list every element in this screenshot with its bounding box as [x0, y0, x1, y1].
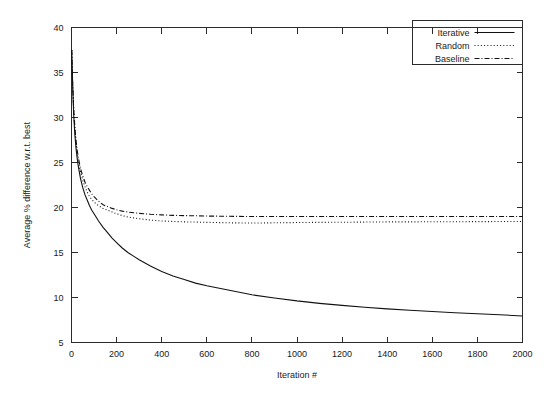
x-axis-ticks: 0200400600800100012001400160018002000: [69, 28, 533, 359]
y-tick-label: 35: [53, 68, 63, 78]
line-chart: 510152025303540 020040060080010001200140…: [0, 0, 558, 403]
y-axis-title: Average % difference w.r.t. best: [22, 121, 32, 248]
legend-label-random: Random: [435, 41, 469, 51]
y-tick-label: 10: [53, 293, 63, 303]
y-tick-label: 25: [53, 158, 63, 168]
x-tick-label: 1800: [467, 349, 487, 359]
series-line-baseline: [72, 50, 523, 217]
chart-figure: 510152025303540 020040060080010001200140…: [0, 0, 558, 403]
x-tick-label: 1600: [422, 349, 442, 359]
x-tick-label: 200: [109, 349, 124, 359]
legend-label-iterative: Iterative: [437, 28, 469, 38]
y-tick-label: 5: [58, 338, 63, 348]
plot-frame: [72, 28, 523, 343]
y-tick-label: 30: [53, 113, 63, 123]
x-tick-label: 0: [69, 349, 74, 359]
x-tick-label: 1000: [287, 349, 307, 359]
y-tick-label: 15: [53, 248, 63, 258]
x-tick-label: 800: [244, 349, 259, 359]
legend-label-baseline: Baseline: [435, 54, 470, 64]
data-series-group: [72, 50, 523, 316]
x-axis-title: Iteration #: [277, 370, 317, 380]
x-tick-label: 1400: [377, 349, 397, 359]
x-tick-label: 600: [199, 349, 214, 359]
series-line-iterative: [72, 50, 523, 316]
y-tick-label: 20: [53, 203, 63, 213]
series-line-random: [72, 50, 523, 223]
x-tick-label: 1200: [332, 349, 352, 359]
x-tick-label: 2000: [512, 349, 532, 359]
x-tick-label: 400: [154, 349, 169, 359]
y-tick-label: 40: [53, 23, 63, 33]
